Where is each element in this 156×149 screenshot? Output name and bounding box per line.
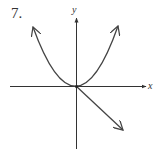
origin-point [75,85,78,88]
parabola-curve [33,26,118,86]
graph [0,0,156,149]
line-curve [76,86,123,130]
